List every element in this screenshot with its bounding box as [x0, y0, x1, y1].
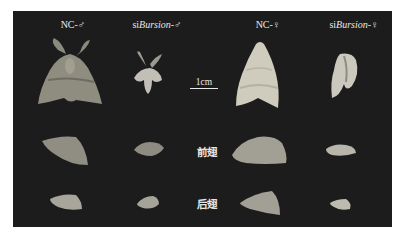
header-nc-male: NC-♂: [61, 19, 86, 30]
moth-nc-male-image: [36, 38, 106, 110]
scale-bar-line: [190, 88, 218, 89]
hindwing-sibursion-male-image: [135, 194, 161, 210]
forewing-nc-female-image: [230, 135, 288, 167]
hindwing-nc-male-image: [48, 193, 84, 213]
row-label-forewing: 前翅: [197, 144, 218, 159]
hindwing-sibursion-female-image: [328, 197, 354, 211]
forewing-nc-male-image: [40, 135, 90, 169]
forewing-sibursion-female-image: [324, 143, 358, 157]
moth-sibursion-female-image: [326, 50, 362, 102]
forewing-sibursion-male-image: [132, 140, 166, 158]
hindwing-nc-female-image: [238, 189, 282, 217]
scale-bar-label: 1cm: [196, 77, 212, 87]
header-sibursion-female: siBursion-♀: [329, 19, 378, 30]
scale-bar: 1cm: [190, 77, 218, 89]
row-label-hindwing: 后翅: [197, 196, 218, 211]
moth-nc-female-image: [234, 40, 284, 110]
header-nc-female: NC-♀: [256, 19, 281, 30]
header-sibursion-male: siBursion-♂: [132, 19, 181, 30]
moth-sibursion-male-image: [128, 50, 168, 100]
